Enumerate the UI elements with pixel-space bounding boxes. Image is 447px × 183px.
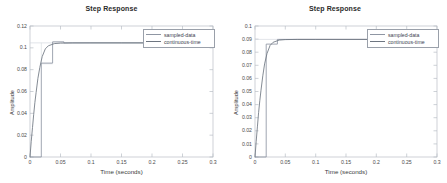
legend-left[interactable]: sampled-data continuous-time (143, 29, 215, 48)
y-axis-label: Amplitude (9, 90, 15, 115)
plot-axes-left (0, 0, 223, 183)
ytick-label: 0.02 (6, 132, 27, 138)
xtick-label: 0.05 (49, 159, 73, 165)
xtick-label: 0.1 (79, 159, 103, 165)
ytick-label: 0.1 (6, 44, 27, 50)
plot-axes-right (223, 0, 447, 183)
legend-label: continuous-time (164, 39, 201, 45)
ytick-label: 0.08 (231, 49, 252, 55)
legend-line-icon (370, 41, 385, 42)
xtick-label: 0.2 (140, 159, 164, 165)
xtick-label: 0.15 (334, 159, 358, 165)
xtick-label: 0.1 (304, 159, 328, 165)
ytick-label: 0.03 (231, 114, 252, 120)
xtick-label: 0.05 (273, 159, 297, 165)
legend-line-icon (146, 41, 161, 42)
xtick-label: 0 (18, 159, 42, 165)
step-response-panel-left: Step Response (0, 0, 223, 183)
xtick-label: 0.15 (110, 159, 134, 165)
legend-label: continuous-time (388, 39, 425, 45)
xtick-label: 0.3 (425, 159, 447, 165)
step-response-figure-row: Step Response (0, 0, 447, 183)
legend-line-icon (370, 34, 385, 35)
legend-line-icon (146, 34, 161, 35)
ytick-label: 0.01 (231, 141, 252, 147)
legend-item-continuous-time[interactable]: continuous-time (370, 38, 436, 45)
legend-label: sampled-data (388, 32, 419, 38)
ytick-label: 0.08 (6, 66, 27, 72)
xtick-label: 0.3 (201, 159, 225, 165)
legend-item-sampled-data[interactable]: sampled-data (370, 31, 436, 38)
legend-item-continuous-time[interactable]: continuous-time (146, 38, 212, 45)
xtick-label: 0.2 (364, 159, 388, 165)
xtick-label: 0.25 (395, 159, 419, 165)
ytick-label: 0.12 (6, 23, 27, 29)
x-axis-label: Time (seconds) (255, 168, 437, 175)
ytick-label: 0.1 (231, 23, 252, 29)
y-axis-label: Amplitude (233, 90, 239, 115)
xtick-label: 0 (243, 159, 267, 165)
legend-item-sampled-data[interactable]: sampled-data (146, 31, 212, 38)
xtick-label: 0.25 (171, 159, 195, 165)
x-axis-label: Time (seconds) (30, 168, 213, 175)
legend-right[interactable]: sampled-data continuous-time (367, 29, 439, 48)
ytick-label: 0.07 (231, 62, 252, 68)
ytick-label: 0.02 (231, 127, 252, 133)
step-response-panel-right: Step Response (223, 0, 447, 183)
ytick-label: 0.09 (231, 36, 252, 42)
legend-label: sampled-data (164, 32, 195, 38)
ytick-label: 0.06 (231, 75, 252, 81)
